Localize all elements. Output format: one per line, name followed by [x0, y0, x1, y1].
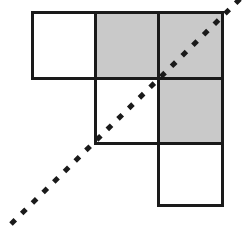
- polyomino-figure: y: [0, 0, 244, 244]
- cell-r2c3-fill: [158, 78, 222, 143]
- grid-diagram-svg: [0, 0, 244, 244]
- cell-r1c2-fill: [95, 12, 158, 78]
- cell-r1c3-fill: [158, 12, 222, 78]
